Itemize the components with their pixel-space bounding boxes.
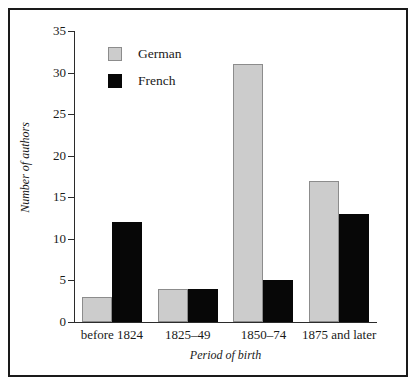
bar-german-2 bbox=[233, 64, 263, 322]
legend-entry-french: French bbox=[108, 73, 181, 89]
x-axis-line bbox=[74, 322, 377, 323]
bar-french-0 bbox=[112, 222, 142, 322]
y-axis-tick-label: 30 bbox=[26, 66, 66, 79]
bar-french-3 bbox=[339, 214, 369, 322]
x-axis-title: Period of birth bbox=[74, 348, 377, 363]
x-axis-tick-label: 1875 and later bbox=[279, 328, 399, 342]
legend-label-french: French bbox=[138, 74, 176, 88]
german-swatch-icon bbox=[108, 47, 122, 61]
french-swatch-icon bbox=[108, 74, 122, 88]
figure-root: 05101520253035 before 18241825–491850–74… bbox=[0, 0, 418, 387]
y-axis-title: Number of authors bbox=[18, 93, 33, 243]
bar-german-3 bbox=[309, 181, 339, 322]
y-axis-tick-label: 35 bbox=[26, 24, 66, 37]
bar-german-1 bbox=[158, 289, 188, 322]
legend-entry-german: German bbox=[108, 46, 181, 62]
y-axis-tick-label: 5 bbox=[26, 273, 66, 286]
bar-french-1 bbox=[188, 289, 218, 322]
bar-german-0 bbox=[82, 297, 112, 322]
bar-french-2 bbox=[263, 280, 293, 322]
y-axis-tick-label: 0 bbox=[26, 315, 66, 328]
legend-label-german: German bbox=[138, 47, 181, 61]
chart-legend: German French bbox=[108, 46, 181, 100]
y-axis-tick-mark bbox=[68, 322, 74, 323]
